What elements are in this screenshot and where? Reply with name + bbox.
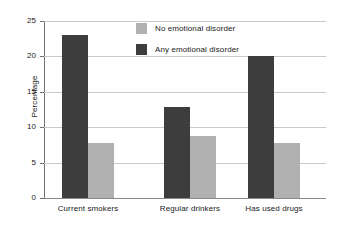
legend-item: Any emotional disorder bbox=[136, 43, 239, 55]
bar-any-emotional-disorder bbox=[62, 35, 88, 198]
legend-swatch-icon bbox=[136, 23, 147, 34]
x-tick-label: Has used drugs bbox=[214, 204, 334, 213]
bar-no-emotional-disorder bbox=[88, 143, 114, 198]
bar-chart: Percentage 0510152025 Current smokersReg… bbox=[0, 0, 343, 231]
legend-label: No emotional disorder bbox=[155, 24, 235, 33]
bar-no-emotional-disorder bbox=[274, 143, 300, 198]
y-tick-label: 10 bbox=[14, 122, 36, 131]
bar-any-emotional-disorder bbox=[164, 107, 190, 198]
y-tick-label: 15 bbox=[14, 87, 36, 96]
y-tick-label: 20 bbox=[14, 51, 36, 60]
bar-any-emotional-disorder bbox=[248, 56, 274, 198]
legend-label: Any emotional disorder bbox=[155, 45, 239, 54]
y-tick-label: 0 bbox=[14, 193, 36, 202]
legend-swatch-icon bbox=[136, 44, 147, 55]
y-tick-label: 5 bbox=[14, 158, 36, 167]
legend-item: No emotional disorder bbox=[136, 22, 239, 34]
chart-legend: No emotional disorderAny emotional disor… bbox=[136, 22, 239, 64]
bar-no-emotional-disorder bbox=[190, 136, 216, 198]
gridline bbox=[44, 198, 326, 199]
y-tick-mark bbox=[40, 198, 44, 199]
y-tick-label: 25 bbox=[14, 16, 36, 25]
